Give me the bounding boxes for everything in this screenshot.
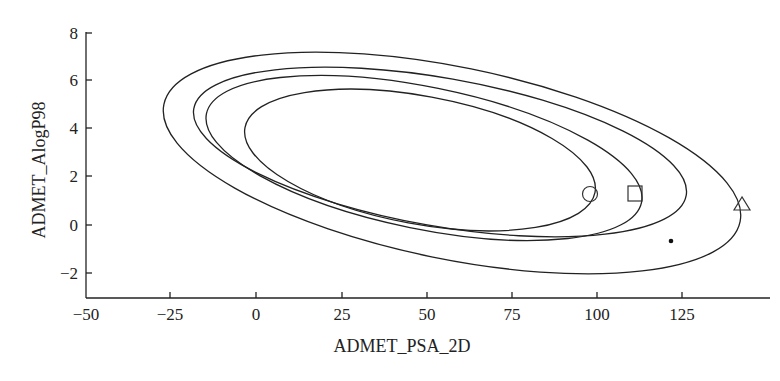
y-tick-label: 6 [70,71,79,90]
scatter-chart: 8 6 4 2 0 −2 −50 −25 0 25 50 75 100 125 … [0,0,780,381]
y-ticks: 8 6 4 2 0 −2 [60,24,92,283]
ellipses [145,10,759,315]
x-tick-label: −25 [157,305,184,324]
x-tick-label: 0 [252,305,261,324]
dot-marker [669,239,674,244]
y-tick-label: 4 [70,119,79,138]
x-tick-label: 50 [419,305,436,324]
y-tick-label: −2 [60,264,78,283]
y-tick-label: 8 [70,24,79,43]
y-axis-title: ADMET_AlogP98 [29,101,49,238]
y-tick-label: 0 [70,216,79,235]
ellipse-1 [233,65,606,256]
ellipse-2 [192,44,655,272]
y-tick-label: 2 [70,167,79,186]
x-axis-title: ADMET_PSA_2D [333,336,470,356]
axes: 8 6 4 2 0 −2 −50 −25 0 25 50 75 100 125 … [29,24,770,356]
ellipse-4 [145,10,759,315]
x-tick-label: −50 [73,305,100,324]
x-tick-label: 25 [334,305,351,324]
markers [583,186,751,243]
x-tick-label: 75 [504,305,521,324]
x-tick-label: 100 [584,305,610,324]
x-ticks: −50 −25 0 25 50 75 100 125 [73,292,695,324]
x-tick-label: 125 [669,305,695,324]
